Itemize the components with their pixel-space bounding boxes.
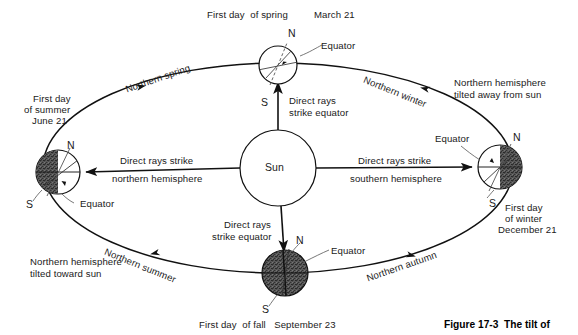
fall-south-pole-label: S (262, 304, 269, 316)
ray-line-to-winter (316, 167, 472, 168)
ray-line-to-summer (86, 168, 240, 172)
leader-fall-equator (304, 250, 329, 262)
winter-equator-label: Equator (435, 133, 469, 145)
winter-south-pole-label: S (489, 198, 496, 210)
summer-equator-label: Equator (80, 198, 114, 210)
winter-rays-line1: Direct rays strike (358, 155, 431, 167)
summer-season-title-line1: First day (33, 93, 71, 105)
leader-summer-equator (62, 194, 74, 203)
spring-north-pole-label: N (288, 28, 296, 40)
winter-season-title-line2: of winter (505, 213, 542, 225)
earth-summer-solstice (30, 148, 82, 203)
summer-rays-line2: northern hemisphere (112, 173, 202, 185)
fall-season-title: First day of fall September 23 (199, 319, 336, 331)
leader-spring-equator (300, 45, 322, 56)
spring-date: March 21 (314, 9, 355, 21)
spring-south-pole-label: S (261, 97, 268, 109)
winter-tilt-note-line1: Northern hemisphere (454, 77, 546, 89)
ray-line-to-fall (281, 206, 284, 252)
spring-season-title: First day of spring (207, 9, 288, 21)
earth-winter-solstice (461, 143, 528, 198)
spring-rays-line2: strike equator (289, 107, 349, 119)
summer-rays-line1: Direct rays strike (120, 155, 193, 167)
winter-rays-line2: southern hemisphere (350, 173, 442, 185)
figure-caption: Figure 17-3 The tilt of (444, 319, 550, 330)
summer-north-pole-label: N (67, 140, 75, 152)
leader-winter-equator (461, 146, 480, 160)
winter-north-pole-label: N (513, 132, 521, 144)
summer-south-pole-label: S (26, 199, 33, 211)
spring-equator-label: Equator (321, 40, 355, 52)
summer-season-title-line3: June 21 (32, 115, 67, 127)
winter-season-title-line3: December 21 (498, 224, 557, 236)
diagram-canvas (0, 0, 578, 335)
leader-summer-S (33, 190, 42, 201)
seasons-diagram: First day of spring March 21 N S Equator… (0, 0, 578, 335)
spring-rays-line1: Direct rays (289, 95, 336, 107)
winter-season-title-line1: First day (505, 202, 543, 214)
winter-tilt-note-line2: tilted away from sun (454, 89, 541, 101)
fall-rays-line2: strike equator (212, 231, 272, 243)
leader-fall-S (269, 295, 277, 306)
earth-fall-equinox (262, 243, 329, 306)
fall-north-pole-label: N (296, 235, 304, 247)
summer-tilt-note-line2: tilted toward sun (30, 268, 102, 280)
summer-season-title-line2: of summer (24, 104, 70, 116)
orbit-arrow-summer (150, 249, 161, 257)
sun-label: Sun (265, 162, 284, 174)
fall-rays-line1: Direct rays (224, 219, 271, 231)
fall-equator-label: Equator (331, 245, 365, 257)
